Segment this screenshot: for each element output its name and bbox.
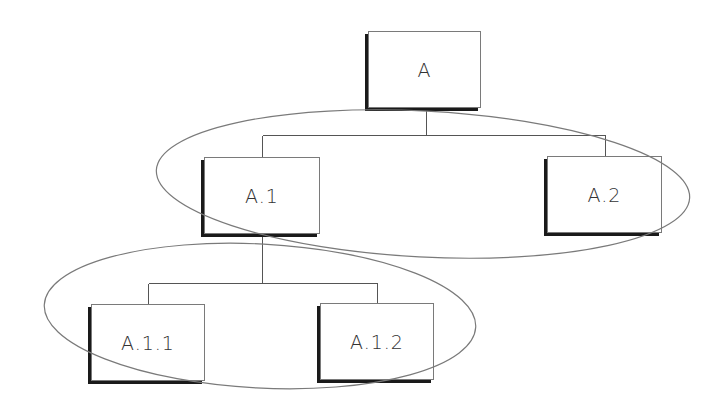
node-a12[interactable]: A.1.2 — [320, 303, 434, 380]
node-a11-label: A.1.1 — [121, 332, 175, 354]
node-a1-label: A.1 — [245, 185, 279, 207]
connectors-level-2 — [149, 236, 378, 304]
node-a11[interactable]: A.1.1 — [91, 304, 205, 381]
connectors-level-1 — [263, 110, 606, 157]
node-a[interactable]: A — [368, 31, 481, 108]
node-a-label: A — [418, 59, 432, 81]
node-a1[interactable]: A.1 — [204, 157, 320, 234]
node-a12-label: A.1.2 — [350, 331, 404, 353]
node-a2-label: A.2 — [588, 184, 622, 206]
node-a2[interactable]: A.2 — [547, 156, 662, 233]
